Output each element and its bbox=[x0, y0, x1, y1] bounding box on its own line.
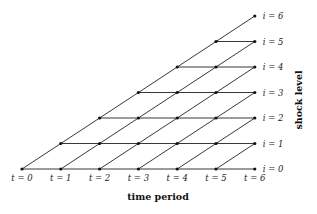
lattice-node bbox=[253, 40, 256, 43]
lattice-node bbox=[253, 14, 256, 17]
lattice-node bbox=[20, 167, 23, 170]
diagonal-line bbox=[61, 42, 255, 170]
lattice-node bbox=[253, 65, 256, 68]
lattice-node bbox=[176, 65, 179, 68]
time-label: t = 6 bbox=[244, 173, 266, 183]
lattice-node bbox=[137, 116, 140, 119]
shock-lattice-diagram: t = 0t = 1t = 2t = 3t = 4t = 5t = 6 i = … bbox=[0, 0, 317, 214]
x-axis-title: time period bbox=[127, 191, 189, 202]
lattice-node bbox=[98, 167, 101, 170]
lattice-node bbox=[214, 65, 217, 68]
level-label: i = 3 bbox=[263, 88, 284, 98]
level-label: i = 5 bbox=[263, 37, 284, 47]
level-label: i = 6 bbox=[263, 11, 284, 21]
lattice-node bbox=[59, 167, 62, 170]
diagonal-line bbox=[216, 144, 255, 170]
diagonal-line bbox=[138, 93, 254, 170]
lattice-node bbox=[214, 167, 217, 170]
lattice-node bbox=[98, 116, 101, 119]
time-label: t = 2 bbox=[89, 173, 110, 183]
lattice-node bbox=[137, 91, 140, 94]
lattice-node bbox=[214, 142, 217, 145]
lattice-node bbox=[176, 167, 179, 170]
time-label: t = 1 bbox=[50, 173, 71, 183]
time-label: t = 5 bbox=[205, 173, 226, 183]
level-label: i = 4 bbox=[263, 62, 284, 72]
level-label: i = 0 bbox=[263, 164, 284, 174]
time-labels: t = 0t = 1t = 2t = 3t = 4t = 5t = 6 bbox=[11, 173, 266, 183]
lattice-node bbox=[176, 91, 179, 94]
lattice-node bbox=[253, 142, 256, 145]
lattice-node bbox=[176, 116, 179, 119]
time-label: t = 0 bbox=[11, 173, 33, 183]
lattice-node bbox=[253, 91, 256, 94]
lattice-node bbox=[253, 167, 256, 170]
time-label: t = 4 bbox=[167, 173, 188, 183]
lattice-node bbox=[98, 142, 101, 145]
lattice-node bbox=[214, 91, 217, 94]
lattice-node bbox=[137, 142, 140, 145]
lattice-node bbox=[214, 40, 217, 43]
lattice-node bbox=[253, 116, 256, 119]
level-labels: i = 0i = 1i = 2i = 3i = 4i = 5i = 6 bbox=[263, 11, 284, 174]
time-label: t = 3 bbox=[128, 173, 149, 183]
lattice-node bbox=[214, 116, 217, 119]
level-label: i = 1 bbox=[263, 139, 284, 149]
level-label: i = 2 bbox=[263, 113, 284, 123]
lattice-node bbox=[176, 142, 179, 145]
lattice-node bbox=[59, 142, 62, 145]
y-axis-title: shock level bbox=[293, 70, 304, 129]
lattice-node bbox=[137, 167, 140, 170]
